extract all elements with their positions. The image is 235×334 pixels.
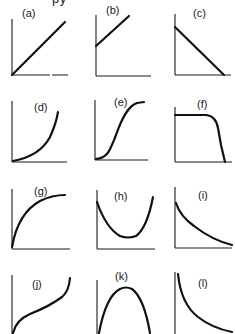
- panel-a-label: (a): [22, 8, 35, 19]
- panel-d-curve: [13, 112, 58, 161]
- panel-i-label: (i): [198, 190, 208, 201]
- panel-d-label: (d): [34, 102, 47, 113]
- graph-shapes-grid: py: [0, 0, 235, 334]
- panel-g-label: (g): [34, 186, 47, 197]
- panel-k-label: (k): [115, 271, 128, 282]
- panel-e-curve: [96, 102, 144, 159]
- panel-h-curve: [97, 197, 153, 238]
- panel-f-label: (f): [197, 99, 207, 110]
- panel-e-label: (e): [114, 97, 127, 108]
- panel-g-curve: [12, 195, 65, 247]
- panel-f-curve: [175, 115, 225, 162]
- panel-a: [12, 19, 68, 75]
- panel-l-label: (l): [198, 278, 208, 289]
- panel-c-label: (c): [193, 8, 206, 19]
- panel-g: [12, 189, 70, 249]
- panel-b-curve: [96, 16, 129, 46]
- panel-b: [96, 15, 151, 76]
- panel-c: [175, 14, 231, 75]
- panel-a-curve: [12, 22, 65, 75]
- panel-f: [175, 107, 232, 162]
- panel-k: [97, 280, 150, 334]
- panel-k-curve: [99, 288, 150, 334]
- panel-b-label: (b): [106, 5, 119, 16]
- panel-h-label: (h): [114, 191, 127, 202]
- panel-c-curve: [175, 27, 224, 75]
- panel-i-curve: [176, 203, 232, 245]
- panel-e: [95, 100, 148, 160]
- panel-j-label: (j): [32, 279, 42, 290]
